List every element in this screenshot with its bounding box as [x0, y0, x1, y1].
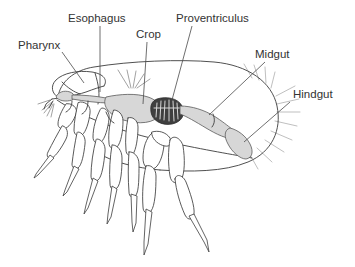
label-esophagus: Esophagus [68, 12, 126, 24]
leg-3-tibia [91, 139, 105, 181]
leg-4-tarsal-claw [107, 186, 117, 224]
leg-4 [107, 110, 123, 224]
seta-icon [265, 67, 266, 83]
leg-1-tarsal-claw [34, 155, 54, 178]
leg-2-tarsal-claw [63, 166, 79, 196]
leader-line-midgut [209, 62, 265, 115]
leg-6 [169, 137, 210, 252]
leader-line-pharynx [62, 52, 84, 83]
leader-line-proventriculus [172, 26, 192, 100]
insect-digestive-diagram: Pharynx Esophagus Crop Proventriculus Mi… [0, 0, 355, 267]
label-midgut: Midgut [255, 48, 290, 60]
posterior-setae-group [244, 64, 300, 169]
leader-line-crop [143, 42, 147, 104]
legs-group [34, 101, 209, 255]
label-hindgut: Hindgut [293, 88, 333, 100]
seta-icon [271, 72, 275, 88]
leg-5-tarsal-claw [144, 209, 152, 255]
leg-6-tibia [175, 175, 194, 219]
leg-2-tibia [72, 132, 85, 169]
label-pharynx: Pharynx [18, 39, 60, 51]
leg-7-tarsal-claw [131, 194, 137, 232]
leg-6-tarsal-claw [189, 214, 209, 252]
diagram-canvas: Pharynx Esophagus Crop Proventriculus Mi… [0, 0, 355, 267]
seta-icon [257, 148, 272, 162]
seta-icon [133, 71, 136, 88]
seta-icon [265, 140, 284, 152]
leg-7-tibia [128, 152, 139, 197]
leg-4-femur [109, 110, 123, 148]
label-crop: Crop [136, 28, 161, 40]
seta-icon [51, 104, 54, 117]
leg-1-tibia [47, 126, 67, 158]
leg-1-femur [58, 104, 77, 129]
leg-5 [143, 131, 172, 255]
seta-icon [137, 79, 150, 88]
label-proventriculus: Proventriculus [176, 12, 249, 24]
leg-5-tibia [143, 165, 156, 213]
proventriculus-organ [151, 98, 184, 125]
leg-3-tarsal-claw [84, 178, 98, 214]
leg-7-femur [126, 117, 138, 155]
leg-1 [34, 104, 77, 178]
leg-4-tibia [110, 145, 122, 189]
leg-7 [126, 117, 139, 232]
